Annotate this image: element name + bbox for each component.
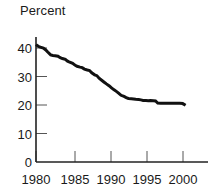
ytick-label-10: 10 xyxy=(6,127,32,142)
y-axis-ticks xyxy=(36,48,47,134)
xtick-label-2000: 2000 xyxy=(169,172,198,187)
x-axis-ticks xyxy=(36,151,183,162)
chart-plot-area xyxy=(0,0,223,193)
ytick-label-20: 20 xyxy=(6,98,32,113)
data-series-line xyxy=(36,45,186,106)
ytick-label-30: 30 xyxy=(6,70,32,85)
xtick-label-1985: 1985 xyxy=(61,172,90,187)
ytick-label-0: 0 xyxy=(6,155,32,170)
ytick-label-40: 40 xyxy=(6,41,32,56)
percent-line-chart: Percent 40 30 20 10 0 1980 1985 1990 199… xyxy=(0,0,223,193)
xtick-label-1995: 1995 xyxy=(133,172,162,187)
xtick-label-1980: 1980 xyxy=(22,172,51,187)
xtick-label-1990: 1990 xyxy=(97,172,126,187)
